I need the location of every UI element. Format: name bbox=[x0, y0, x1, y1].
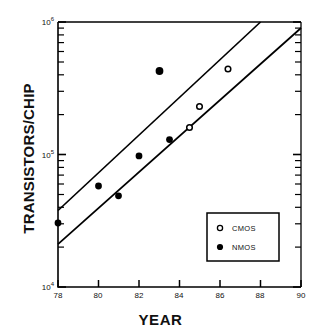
trend-lines bbox=[58, 22, 301, 244]
legend-box bbox=[207, 213, 279, 261]
cmos-point-86-4 bbox=[225, 66, 231, 72]
legend-label-nmos: NMOS bbox=[232, 243, 256, 252]
nmos-point-82 bbox=[136, 153, 143, 160]
y-axis-ticks bbox=[58, 22, 66, 287]
legend-marker-nmos-icon bbox=[217, 244, 223, 250]
nmos-data-points bbox=[55, 67, 173, 226]
upper-trend-line bbox=[58, 22, 261, 211]
chart-figure: TRANSISTORS/CHIP YEAR 106 105 104 78 80 … bbox=[0, 0, 321, 335]
lower-trend-line bbox=[58, 28, 301, 244]
plot-area-svg: CMOS NMOS bbox=[0, 0, 321, 335]
legend-marker-cmos-icon bbox=[217, 225, 222, 230]
x-axis-ticks bbox=[58, 280, 301, 287]
nmos-point-80 bbox=[95, 183, 102, 190]
cmos-data-points bbox=[187, 66, 231, 130]
nmos-point-78 bbox=[55, 220, 62, 227]
nmos-point-83 bbox=[156, 67, 164, 75]
cmos-point-85 bbox=[197, 104, 203, 110]
legend: CMOS NMOS bbox=[207, 213, 279, 261]
legend-label-cmos: CMOS bbox=[232, 224, 256, 233]
nmos-point-81 bbox=[115, 192, 122, 199]
cmos-point-84-5 bbox=[187, 125, 193, 131]
nmos-point-83-5 bbox=[166, 136, 173, 143]
right-axis-ticks bbox=[293, 22, 301, 287]
